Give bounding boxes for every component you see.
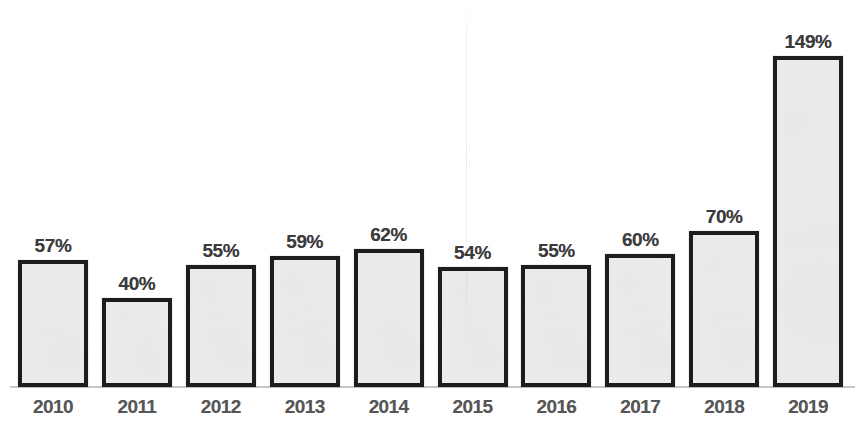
- bar-fill-texture: [693, 235, 755, 383]
- bar-fill-texture: [274, 260, 336, 383]
- category-label-2011: 2011: [94, 396, 180, 418]
- category-label-2018: 2018: [681, 396, 767, 418]
- category-label-2014: 2014: [346, 396, 432, 418]
- bar-2011: [102, 298, 172, 387]
- category-label-2016: 2016: [513, 396, 599, 418]
- bar-2016: [521, 265, 591, 387]
- bar-2012: [186, 265, 256, 387]
- value-label-2010: 57%: [3, 235, 103, 257]
- bar-2010: [18, 260, 88, 387]
- value-label-2011: 40%: [87, 273, 187, 295]
- bar-fill-texture: [442, 271, 504, 383]
- bar-fill-texture: [609, 258, 671, 383]
- category-label-2019: 2019: [765, 396, 851, 418]
- value-label-2017: 60%: [590, 229, 690, 251]
- bar-2019: [773, 56, 843, 387]
- bar-fill-texture: [358, 253, 420, 383]
- value-label-2019: 149%: [758, 31, 858, 53]
- bar-chart: 57%40%55%59%62%54%55%60%70%149% 20102011…: [0, 0, 859, 437]
- bar-2017: [605, 254, 675, 387]
- category-label-2010: 2010: [10, 396, 96, 418]
- category-label-2012: 2012: [178, 396, 264, 418]
- bar-2014: [354, 249, 424, 387]
- bar-fill-texture: [525, 269, 587, 383]
- value-label-2018: 70%: [674, 206, 774, 228]
- bar-2018: [689, 231, 759, 387]
- category-label-2015: 2015: [430, 396, 516, 418]
- bar-2015: [438, 267, 508, 387]
- bar-fill-texture: [106, 302, 168, 383]
- bar-fill-texture: [190, 269, 252, 383]
- bar-2013: [270, 256, 340, 387]
- plot-area: 57%40%55%59%62%54%55%60%70%149% 20102011…: [0, 0, 859, 437]
- bar-fill-texture: [22, 264, 84, 383]
- category-label-2013: 2013: [262, 396, 348, 418]
- bar-fill-texture: [777, 60, 839, 383]
- category-label-2017: 2017: [597, 396, 683, 418]
